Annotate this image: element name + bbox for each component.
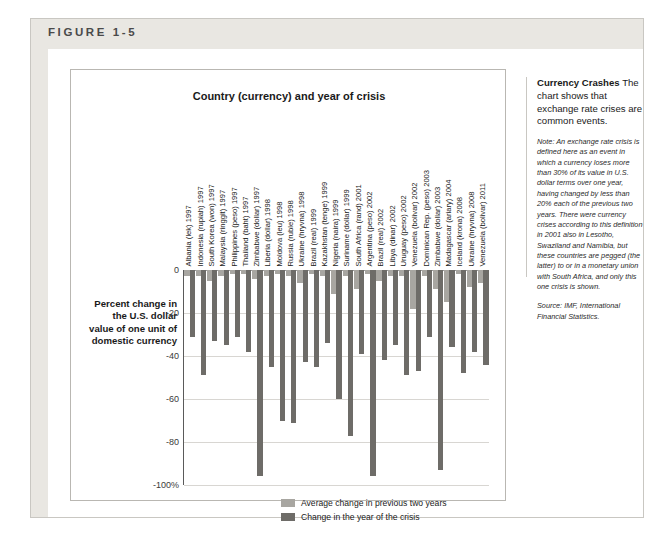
chart-legend: Average change in previous two yearsChan…	[281, 498, 447, 526]
bar-group: Zimbabwe (dollar) 2003	[433, 270, 443, 485]
legend-label: Change in the year of the crisis	[301, 512, 419, 522]
bar-crisis-change	[416, 270, 421, 371]
x-axis-label: Venezuela (bolivar) 2002	[412, 183, 420, 267]
x-axis-label: South Africa (rand) 2001	[355, 185, 363, 267]
bar-group: Malaysia (ringgit) 1997	[218, 270, 228, 485]
figure-frame: FIGURE 1-5 Country (currency) and year o…	[30, 18, 644, 518]
y-tick-label: -100%	[153, 480, 179, 490]
bar-crisis-change	[359, 270, 364, 354]
x-axis-label: Malaysia (ringgit) 1997	[220, 190, 228, 267]
bar-crisis-change	[212, 270, 217, 341]
x-axis-label: Ukraine (hryvna) 2008	[468, 192, 476, 267]
x-axis-label: South Korea (won) 1997	[208, 185, 216, 267]
gridline	[184, 485, 489, 486]
bar-group: Philippines (peso) 1997	[230, 270, 240, 485]
x-axis-label: Liberia (dollar) 1998	[265, 199, 273, 267]
figure-page: FIGURE 1-5 Country (currency) and year o…	[0, 0, 667, 534]
legend-item: Average change in previous two years	[281, 498, 447, 508]
bar-crisis-change	[280, 270, 285, 421]
x-axis-label: Zimbabwe (dollar) 1997	[254, 187, 262, 267]
x-axis-label: Venezuela (bolivar) 2011	[479, 184, 487, 267]
bar-crisis-change	[370, 270, 375, 476]
bar-group: Ukraine (hryvna) 1998	[297, 270, 307, 485]
bar-crisis-change	[393, 270, 398, 345]
x-axis-label: Brazil (real) 2002	[378, 209, 386, 267]
sidebar-headline: Currency Crashes	[537, 77, 620, 88]
x-axis-label: Albania (lek) 1997	[186, 206, 194, 267]
bar-crisis-change	[246, 270, 251, 352]
bar-crisis-change	[382, 270, 387, 360]
x-axis-label: Libya (dinar) 2002	[389, 206, 397, 267]
bar-crisis-change	[336, 270, 341, 399]
chart-panel: Country (currency) and year of crisis Pe…	[48, 49, 526, 517]
x-axis-label: Zimbabwe (dollar) 2003	[434, 187, 442, 267]
x-axis-label: Brazil (real) 1999	[310, 209, 318, 267]
x-axis-label: Russia (ruble) 1998	[287, 201, 295, 267]
bar-crisis-change	[449, 270, 454, 347]
bar-group: Libya (dinar) 2002	[388, 270, 398, 485]
bar-crisis-change	[257, 270, 262, 476]
bar-group: Kazakhstan (tenge) 1999	[320, 270, 330, 485]
bar-group: Russia (ruble) 1998	[286, 270, 296, 485]
chart-title: Country (currency) and year of crisis	[71, 90, 507, 102]
x-axis-label: Iceland (krona) 2008	[457, 197, 465, 267]
x-axis-label: Indonesia (rupiah) 1997	[197, 187, 205, 267]
bar-group: South Korea (won) 1997	[207, 270, 217, 485]
bar-crisis-change	[325, 270, 330, 343]
x-axis-label: Ukraine (hryvna) 1998	[299, 192, 307, 267]
x-axis-label: Nigeria (naira) 1999	[333, 200, 341, 267]
y-tick-label: -40	[166, 351, 179, 361]
x-axis-label: Madagascar (ariary) 2004	[446, 180, 454, 267]
bar-crisis-change	[438, 270, 443, 470]
bar-group: Madagascar (ariary) 2004	[444, 270, 454, 485]
y-axis-caption: Percent change in the U.S. dollar value …	[89, 298, 177, 347]
x-axis-label: Philippines (peso) 1997	[231, 188, 239, 267]
chart-plot-frame: Country (currency) and year of crisis Pe…	[70, 69, 506, 501]
sidebar-headline-block: Currency Crashes The chart shows that ex…	[537, 77, 643, 128]
legend-swatch	[281, 513, 295, 521]
figure-number-label: FIGURE 1-5	[48, 26, 137, 38]
sidebar-annotation: Currency Crashes The chart shows that ex…	[526, 49, 643, 517]
x-axis-label: Moldova (leu) 1998	[276, 202, 284, 267]
left-spine-decoration	[31, 49, 48, 517]
bar-group: Zimbabwe (dollar) 1997	[252, 270, 262, 485]
bar-group: Uruguay (peso) 2002	[399, 270, 409, 485]
bar-crisis-change	[201, 270, 206, 375]
bar-group: Venezuela (bolivar) 2002	[410, 270, 420, 485]
plot-area: 0-20-40-60-80-100% Albania (lek) 1997Ind…	[184, 270, 489, 485]
bar-crisis-change	[224, 270, 229, 345]
bar-crisis-change	[190, 270, 195, 337]
bar-group: Thailand (baht) 1997	[241, 270, 251, 485]
bar-group: South Africa (rand) 2001	[354, 270, 364, 485]
bar-crisis-change	[235, 270, 240, 337]
bar-group: Iceland (krona) 2008	[456, 270, 466, 485]
bar-group: Ukraine (hryvna) 2008	[467, 270, 477, 485]
sidebar-source: Source: IMF, International Financial Sta…	[537, 301, 643, 322]
bar-group: Liberia (dollar) 1998	[264, 270, 274, 485]
bar-group: Venezuela (bolivar) 2011	[478, 270, 488, 485]
bar-crisis-change	[472, 270, 477, 352]
y-tick-label: 0	[174, 265, 179, 275]
sidebar-divider	[526, 77, 527, 277]
x-axis-label: Kazakhstan (tenge) 1999	[321, 182, 329, 267]
bar-group: Brazil (real) 2002	[376, 270, 386, 485]
y-tick-label: -80	[166, 437, 179, 447]
bar-group: Dominican Rep. (peso) 2003	[422, 270, 432, 485]
bar-crisis-change	[404, 270, 409, 375]
bar-group: Suriname (dollar) 1999	[343, 270, 353, 485]
bar-crisis-change	[314, 270, 319, 367]
bar-group: Argentina (peso) 2002	[365, 270, 375, 485]
bar-crisis-change	[427, 270, 432, 337]
bar-group: Albania (lek) 1997	[184, 270, 194, 485]
bar-group: Brazil (real) 1999	[309, 270, 319, 485]
legend-item: Change in the year of the crisis	[281, 512, 447, 522]
plot-inner: 0-20-40-60-80-100% Albania (lek) 1997Ind…	[184, 270, 489, 485]
y-tick-label: -60	[166, 394, 179, 404]
x-axis-label: Suriname (dollar) 1999	[344, 190, 352, 267]
sidebar-body: Currency Crashes The chart shows that ex…	[537, 77, 643, 322]
x-axis-label: Thailand (baht) 1997	[242, 197, 250, 267]
legend-label: Average change in previous two years	[301, 498, 447, 508]
x-axis-label: Argentina (peso) 2002	[366, 192, 374, 267]
bar-group: Moldova (leu) 1998	[275, 270, 285, 485]
legend-swatch	[281, 499, 295, 507]
